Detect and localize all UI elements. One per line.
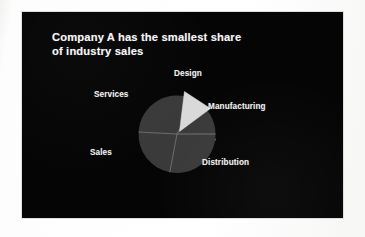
presentation-slide: Company A has the smallest share of indu… — [22, 12, 343, 218]
pie-label-sales: Sales — [90, 148, 112, 157]
pie-chart: Design Manufacturing Services Sales Dist… — [22, 12, 343, 218]
pie-wedge-distribution — [170, 134, 216, 173]
pie-chart-svg — [22, 12, 343, 218]
pie-label-manufacturing: Manufacturing — [208, 102, 266, 111]
scanned-page: Company A has the smallest share of indu… — [0, 0, 365, 237]
pie-label-design: Design — [174, 69, 202, 78]
pie-label-services: Services — [94, 90, 129, 99]
pie-label-distribution: Distribution — [202, 158, 249, 167]
